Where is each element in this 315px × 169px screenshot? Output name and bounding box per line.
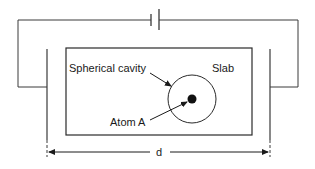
distance-dimension: d (49, 146, 268, 158)
atom-dot (188, 95, 197, 104)
cavity-pointer-arrow (150, 73, 171, 86)
distance-label: d (156, 146, 162, 158)
battery-icon (151, 9, 159, 30)
atom-label: Atom A (110, 116, 146, 128)
cavity-label: Spherical cavity (69, 62, 147, 74)
circuit-wire (18, 20, 298, 87)
slab-label: Slab (212, 62, 234, 74)
capacitor-diagram: Spherical cavity Slab Atom A d (0, 0, 315, 169)
